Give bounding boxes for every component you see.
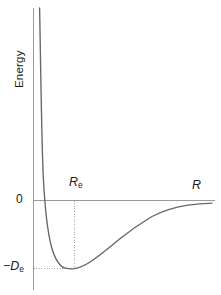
- morse-potential-curve: [40, 8, 212, 269]
- re-subscript: e: [78, 180, 83, 190]
- y-axis-title: Energy: [14, 50, 26, 88]
- well-depth-subscript: e: [19, 264, 24, 274]
- well-depth-symbol: D: [10, 259, 19, 273]
- x-axis-title: R: [192, 179, 201, 192]
- equilibrium-distance-label: Re: [69, 176, 83, 189]
- well-depth-label: −De: [3, 260, 24, 273]
- zero-tick-label: 0: [16, 193, 23, 205]
- re-symbol: R: [69, 175, 78, 189]
- plot-canvas: [0, 0, 221, 295]
- potential-energy-figure: Energy 0 Re R −De: [0, 0, 221, 295]
